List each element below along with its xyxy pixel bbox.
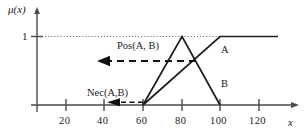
x-tick-label-120: 120 [249,116,266,127]
necessity-label: Nec(A,B) [87,88,128,99]
fuzzy-possibility-necessity-figure: μ(x) 1 x 20 40 60 80 100 120 Pos(A, B) N… [0,0,308,136]
x-axis-arrowhead [291,102,299,108]
x-tick-label-80: 80 [175,116,186,127]
y-tick-label-one: 1 [22,31,28,42]
y-axis-arrowhead [34,7,40,14]
y-axis-label: μ(x) [8,4,26,15]
x-tick-label-100: 100 [210,116,227,127]
x-axis-label: x [288,117,293,128]
x-tick-label-40: 40 [97,116,108,127]
x-tick-label-20: 20 [59,116,70,127]
set-a-label: A [221,45,229,56]
possibility-arrowhead [97,56,110,66]
x-tick-label-60: 60 [136,116,147,127]
set-b-label: B [221,79,228,90]
possibility-label: Pos(A, B) [117,41,159,52]
